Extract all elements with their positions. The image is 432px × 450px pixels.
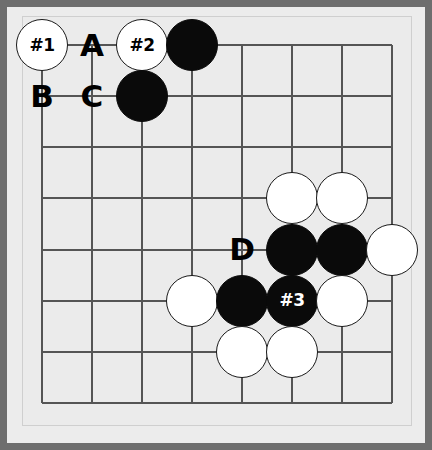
go-diagram-screenshot: #1#2#3 ABCD	[0, 0, 432, 450]
point-label-b[interactable]: B	[26, 79, 58, 113]
point-label-d[interactable]: D	[226, 233, 258, 267]
go-board-point-labels: ABCD	[0, 0, 432, 450]
point-label-a[interactable]: A	[76, 28, 108, 62]
point-label-c[interactable]: C	[76, 79, 108, 113]
